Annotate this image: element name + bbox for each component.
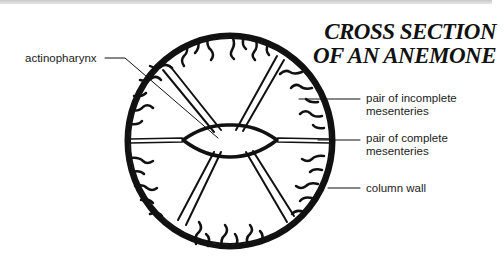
label-incomplete-line-1: pair of incomplete <box>366 92 457 105</box>
anemone-cross-section-diagram <box>0 0 504 261</box>
label-incomplete-mesenteries: pair of incomplete mesenteries <box>366 92 457 118</box>
complete-mesenteries <box>130 138 330 143</box>
incomplete-mesenteries <box>131 36 324 247</box>
actinopharynx-shape <box>183 125 277 157</box>
label-actinopharynx: actinopharynx <box>25 52 97 65</box>
leader-lines <box>105 58 360 188</box>
leader-actinopharynx <box>105 58 218 138</box>
label-complete-line-1: pair of complete <box>366 132 448 145</box>
label-incomplete-line-2: mesenteries <box>366 105 457 118</box>
label-complete-mesenteries: pair of complete mesenteries <box>366 132 448 158</box>
label-complete-line-2: mesenteries <box>366 145 448 158</box>
label-column-wall: column wall <box>366 182 426 195</box>
